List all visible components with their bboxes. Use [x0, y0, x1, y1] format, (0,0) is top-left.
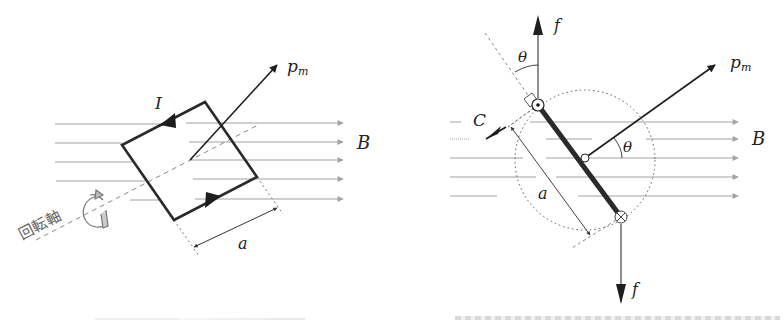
dimension-a-right — [511, 127, 590, 235]
left-figure: pm I B a 回転軸 — [16, 56, 371, 256]
caption-left-fragment — [95, 318, 305, 320]
moment-label-left: pm — [287, 56, 308, 78]
side-label-right: a — [538, 184, 548, 203]
current-arrow-top — [160, 113, 176, 128]
current-arrow-bottom — [205, 192, 221, 208]
magnetic-moment-diagram: pm I B a 回転軸 — [0, 0, 784, 322]
current-out-icon — [532, 99, 544, 111]
field-lines-left — [55, 123, 343, 200]
field-label-left: B — [356, 132, 370, 153]
pivot-point — [581, 154, 589, 162]
angle-arc-top — [515, 65, 538, 72]
moment-label-right: pm — [730, 52, 751, 74]
torque-label: C — [473, 110, 486, 130]
right-figure: f f θ θ pm C B a — [450, 15, 765, 304]
side-label-left: a — [238, 234, 248, 253]
field-label-right: B — [751, 128, 765, 149]
current-label: I — [154, 93, 162, 113]
force-label-bottom: f — [631, 280, 641, 299]
angle-label-top: θ — [518, 48, 527, 66]
dimension-a-left — [194, 208, 277, 247]
angle-arc-center — [614, 138, 622, 158]
current-in-icon — [615, 211, 627, 223]
moment-arrow-left — [190, 65, 277, 160]
caption-right-fragment — [455, 316, 780, 320]
angle-label-center: θ — [623, 138, 632, 156]
moment-arrow-right — [585, 65, 715, 158]
force-label-top: f — [553, 16, 563, 35]
